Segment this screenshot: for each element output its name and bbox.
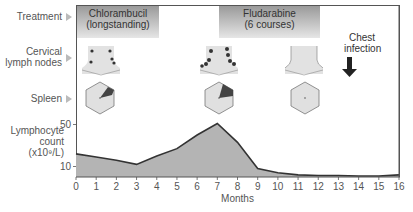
- y-tick-label: 10: [60, 161, 72, 172]
- x-tick-label: 3: [134, 181, 140, 192]
- lymph-nodes-icon-large: [200, 46, 238, 75]
- x-tick-label: 5: [174, 181, 180, 192]
- y-tick-label: 50: [60, 119, 72, 130]
- diagram-graphics: 0123456789101112131415161050Months: [0, 0, 413, 212]
- x-tick-label: 16: [393, 181, 405, 192]
- x-tick-label: 13: [333, 181, 345, 192]
- spleen-icon-mild: [86, 82, 114, 114]
- x-tick-label: 14: [353, 181, 365, 192]
- x-tick-label: 7: [215, 181, 221, 192]
- x-tick-label: 2: [114, 181, 120, 192]
- spleen-icon-normal: [291, 82, 319, 114]
- x-tick-label: 15: [373, 181, 385, 192]
- x-tick-label: 9: [255, 181, 261, 192]
- x-tick-label: 0: [73, 181, 79, 192]
- x-tick-label: 8: [235, 181, 241, 192]
- x-tick-label: 6: [194, 181, 200, 192]
- x-tick-label: 10: [272, 181, 284, 192]
- x-tick-label: 11: [293, 181, 304, 192]
- x-axis-label: Months: [221, 193, 254, 204]
- down-arrow-icon: [342, 57, 357, 77]
- x-tick-label: 12: [313, 181, 325, 192]
- spleen-icon-enlarged: [205, 82, 233, 114]
- x-tick-label: 4: [154, 181, 160, 192]
- lymph-nodes-icon-small: [82, 46, 120, 75]
- area-fill: [76, 123, 399, 177]
- lymph-nodes-icon-normal: [285, 46, 323, 75]
- x-tick-label: 1: [93, 181, 99, 192]
